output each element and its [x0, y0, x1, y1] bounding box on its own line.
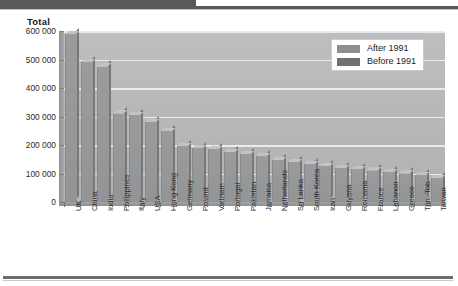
y-axis-label: 0	[4, 198, 56, 206]
y-axis-label: 100 000	[4, 170, 56, 178]
chart-page: Total 600 000500 000400 000300 000200 00…	[0, 0, 458, 286]
x-axis-tick	[271, 202, 272, 207]
x-axis-label: Poland	[201, 187, 210, 211]
x-axis-tick	[255, 202, 256, 207]
x-axis-tick	[414, 202, 415, 207]
x-axis-label: Iran	[328, 198, 337, 211]
x-axis-label: Italy	[137, 197, 146, 211]
header-rule-light	[0, 9, 458, 10]
x-axis-tick	[443, 202, 444, 207]
bar[interactable]	[81, 62, 92, 202]
x-axis-label: Philippines	[122, 174, 131, 211]
x-axis-tick	[382, 202, 383, 207]
bar-front-face	[65, 34, 77, 202]
y-axis-label: 300 000	[4, 113, 56, 121]
y-axis-label: 400 000	[4, 84, 56, 92]
x-axis-tick	[303, 202, 304, 207]
header-accent-bar	[0, 0, 196, 9]
x-axis-label: Germany	[185, 180, 194, 211]
bar-front-face	[81, 62, 93, 202]
legend-label: Before 1991	[367, 57, 416, 66]
x-axis-tick	[239, 202, 240, 207]
x-axis-label: Sri Lanka	[296, 179, 305, 211]
x-axis-tick	[191, 202, 192, 207]
bar-front-face	[97, 67, 109, 202]
x-axis-label: Jamaica	[264, 183, 273, 211]
x-axis-tick	[128, 202, 129, 207]
bar[interactable]	[65, 34, 76, 202]
x-axis-label: Portugal	[233, 183, 242, 211]
x-axis-label: USA	[153, 195, 162, 211]
x-axis-tick	[207, 202, 208, 207]
x-axis-tick	[350, 202, 351, 207]
chart-legend: After 1991Before 1991	[332, 40, 423, 70]
legend-swatch	[337, 58, 360, 66]
x-axis-label: UK	[74, 200, 83, 211]
x-axis-tick	[96, 202, 97, 207]
x-axis-tick	[223, 202, 224, 207]
x-axis-label: Hong Kong	[169, 173, 178, 211]
x-axis-label: Pakistan	[249, 182, 258, 211]
x-axis-tick	[144, 202, 145, 207]
x-axis-label: Trin. Tob.	[423, 180, 432, 211]
x-axis-tick	[287, 202, 288, 207]
bar[interactable]	[97, 67, 108, 202]
bar[interactable]	[319, 166, 330, 202]
y-axis-label: 200 000	[4, 141, 56, 149]
x-axis-label: Taiwan	[439, 187, 448, 211]
x-axis-label: South Korea	[312, 169, 321, 211]
bar-chart: Total 600 000500 000400 000300 000200 00…	[0, 11, 458, 273]
x-axis-tick	[318, 202, 319, 207]
x-axis-tick	[398, 202, 399, 207]
x-axis-tick	[112, 202, 113, 207]
legend-item[interactable]: Before 1991	[337, 57, 416, 66]
x-axis-tick	[176, 202, 177, 207]
x-axis-label: Greece	[407, 186, 416, 211]
bar-front-face	[319, 166, 331, 202]
legend-item[interactable]: After 1991	[337, 44, 416, 53]
bar-front-face	[145, 122, 157, 202]
x-axis-tick	[366, 202, 367, 207]
x-axis-tick	[334, 202, 335, 207]
x-axis-tick	[160, 202, 161, 207]
y-axis-label: 600 000	[4, 27, 56, 35]
y-axis-label: 500 000	[4, 56, 56, 64]
x-axis-label: China	[90, 191, 99, 211]
bar[interactable]	[145, 122, 156, 202]
x-axis-label: Netherlands	[280, 170, 289, 211]
x-axis-tick	[430, 202, 431, 207]
legend-swatch	[337, 45, 360, 53]
x-axis-label: Vietnam	[217, 183, 226, 211]
footer-rule-light	[3, 280, 453, 281]
x-axis-tick	[80, 202, 81, 207]
legend-label: After 1991	[367, 44, 409, 53]
x-axis-label: Lebanon	[391, 181, 400, 211]
footer-rule	[3, 276, 453, 279]
x-axis-label: India	[106, 195, 115, 211]
x-axis-label: Guyana	[344, 184, 353, 211]
x-axis-label: France	[376, 187, 385, 211]
x-axis-tick	[64, 202, 65, 207]
x-axis-label: Romania	[360, 181, 369, 211]
